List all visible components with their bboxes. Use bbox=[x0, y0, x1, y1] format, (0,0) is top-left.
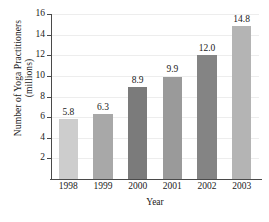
y-tick-mark bbox=[47, 35, 51, 36]
bar: 5.8 bbox=[59, 119, 78, 179]
gridline bbox=[51, 76, 259, 77]
bar: 14.8 bbox=[232, 26, 251, 179]
x-axis-title: Year bbox=[51, 197, 259, 207]
gridline bbox=[51, 55, 259, 56]
y-tick-mark bbox=[47, 117, 51, 118]
gridline bbox=[51, 117, 259, 118]
x-tick-label: 1999 bbox=[94, 182, 113, 192]
bar-value-label: 6.3 bbox=[97, 103, 109, 113]
gridline bbox=[51, 138, 259, 139]
y-tick-label: 10 bbox=[36, 71, 46, 81]
y-tick-label: 14 bbox=[36, 30, 46, 40]
y-tick-mark bbox=[47, 55, 51, 56]
x-tick-label: 2003 bbox=[232, 182, 251, 192]
bar-value-label: 5.8 bbox=[62, 108, 74, 118]
gridline bbox=[51, 97, 259, 98]
bar-value-label: 14.8 bbox=[233, 15, 250, 25]
bar-value-label: 9.9 bbox=[166, 65, 178, 75]
y-tick-label: 6 bbox=[40, 112, 45, 122]
y-tick-label: 16 bbox=[36, 9, 46, 19]
bar: 6.3 bbox=[93, 114, 112, 179]
x-tick-label: 2001 bbox=[163, 182, 182, 192]
y-axis-title-line-2: (millions) bbox=[24, 59, 35, 97]
bar: 9.9 bbox=[163, 77, 182, 179]
y-tick-label: 4 bbox=[40, 133, 45, 143]
y-axis-title: Number of Yoga Practitioners (millions) bbox=[9, 0, 39, 158]
y-tick-label: 8 bbox=[40, 92, 45, 102]
x-tick-label: 1998 bbox=[59, 182, 78, 192]
y-axis-line bbox=[51, 14, 52, 179]
plot-area: 246810121416 5.86.38.99.912.014.8 199819… bbox=[51, 14, 259, 179]
bar-value-label: 8.9 bbox=[132, 76, 144, 86]
gridline bbox=[51, 158, 259, 159]
x-tick-label: 2000 bbox=[128, 182, 147, 192]
bar: 12.0 bbox=[197, 55, 216, 179]
yoga-practitioners-bar-chart: Number of Yoga Practitioners (millions) … bbox=[0, 0, 269, 222]
y-tick-mark bbox=[47, 138, 51, 139]
bar-value-label: 12.0 bbox=[199, 44, 216, 54]
x-tick-label: 2002 bbox=[198, 182, 217, 192]
x-axis-line bbox=[50, 179, 262, 180]
gridline bbox=[51, 35, 259, 36]
y-tick-mark bbox=[47, 14, 51, 15]
y-tick-label: 2 bbox=[40, 154, 45, 164]
bar: 8.9 bbox=[128, 87, 147, 179]
y-tick-label: 12 bbox=[36, 51, 46, 61]
gridline bbox=[51, 14, 259, 15]
y-tick-mark bbox=[47, 97, 51, 98]
y-tick-mark bbox=[47, 158, 51, 159]
y-axis-title-line-1: Number of Yoga Practitioners bbox=[13, 20, 24, 136]
y-tick-mark bbox=[47, 76, 51, 77]
